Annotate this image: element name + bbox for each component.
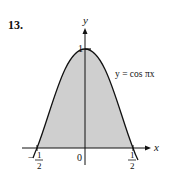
chart-figure: 13. y x 1 0 y = cos πx − 1 2 1 2 — [0, 0, 178, 183]
denominator: 2 — [37, 161, 42, 171]
exercise-number: 13. — [8, 18, 23, 32]
y-axis-label: y — [82, 14, 88, 26]
numerator: 1 — [130, 150, 135, 160]
x-axis-label: x — [153, 141, 159, 153]
denominator: 2 — [130, 161, 135, 171]
minus-sign: − — [28, 152, 34, 163]
origin-label: 0 — [77, 152, 82, 163]
x-axis-arrow-icon — [145, 146, 151, 151]
y-axis-arrow-icon — [83, 28, 88, 34]
y-tick-label-1: 1 — [78, 43, 83, 54]
numerator: 1 — [37, 150, 42, 160]
curve-label: y = cos πx — [115, 69, 155, 79]
